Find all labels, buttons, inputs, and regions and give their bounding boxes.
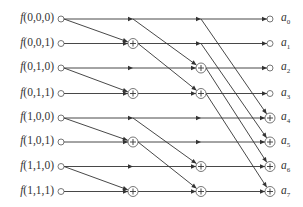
arrow-head-icon <box>260 164 265 168</box>
open-node-icon <box>58 139 64 145</box>
arrow-head-icon <box>262 41 267 45</box>
signal-flow-graph <box>0 0 303 207</box>
cross-edge <box>201 44 267 138</box>
input-label: f(1,0,0) <box>20 110 54 122</box>
cross-edge <box>138 44 197 91</box>
arrow-head-icon <box>128 17 133 21</box>
output-label: a3 <box>281 86 290 101</box>
open-node-icon <box>58 164 64 170</box>
arrow-head-icon <box>262 91 267 95</box>
arrow-head-icon <box>196 41 201 45</box>
cross-edge <box>206 68 267 162</box>
input-label: f(0,0,1) <box>20 36 54 48</box>
arrow-head-icon <box>260 116 265 120</box>
arrow-head-icon <box>262 109 267 114</box>
output-label: a6 <box>281 159 290 174</box>
output-label: a7 <box>281 184 290 199</box>
cross-edge <box>201 19 267 114</box>
open-node-icon <box>267 41 273 47</box>
arrow-head-icon <box>128 116 133 120</box>
arrow-head-icon <box>260 189 265 193</box>
arrow-head-icon <box>191 60 196 65</box>
arrow-head-icon <box>128 66 133 70</box>
cross-edge <box>206 94 267 188</box>
output-label: a1 <box>281 36 290 51</box>
arrow-head-icon <box>262 133 267 138</box>
arrow-head-icon <box>262 17 267 21</box>
open-node-icon <box>58 115 64 121</box>
arrow-head-icon <box>191 66 196 70</box>
open-node-icon <box>58 41 64 47</box>
arrow-head-icon <box>262 66 267 70</box>
arrow-head-icon <box>191 189 196 193</box>
cross-edge <box>64 167 128 190</box>
arrow-head-icon <box>191 91 196 95</box>
arrow-head-icon <box>196 17 201 21</box>
open-node-icon <box>267 91 273 97</box>
arrow-head-icon <box>128 164 133 168</box>
arrow-head-icon <box>262 157 267 162</box>
output-label: a5 <box>281 134 290 149</box>
open-node-icon <box>267 16 273 22</box>
input-label: f(1,0,1) <box>20 134 54 146</box>
arrow-head-icon <box>196 140 201 144</box>
open-node-icon <box>58 16 64 22</box>
arrow-head-icon <box>260 140 265 144</box>
cross-edge <box>64 19 128 42</box>
open-node-icon <box>58 189 64 195</box>
cross-edge <box>64 68 128 92</box>
input-label: f(0,1,0) <box>20 60 54 72</box>
output-label: a4 <box>281 110 290 125</box>
butterfly-diagram: f(0,0,0)f(0,0,1)f(0,1,0)f(0,1,1)f(1,0,0)… <box>0 0 303 207</box>
input-label: f(0,0,0) <box>20 11 54 23</box>
cross-edge <box>133 118 196 164</box>
input-label: f(0,1,1) <box>20 86 54 98</box>
cross-edge <box>64 118 128 140</box>
open-node-icon <box>58 65 64 71</box>
arrow-head-icon <box>191 159 196 164</box>
arrow-head-icon <box>191 164 196 168</box>
input-label: f(1,1,1) <box>20 184 54 196</box>
input-label: f(1,1,0) <box>20 159 54 171</box>
output-label: a2 <box>281 60 290 75</box>
open-node-icon <box>267 65 273 71</box>
arrow-head-icon <box>262 182 267 187</box>
open-node-icon <box>58 91 64 97</box>
arrow-head-icon <box>196 116 201 120</box>
cross-edge <box>138 142 197 188</box>
output-label: a0 <box>281 11 290 26</box>
cross-edge <box>133 19 196 65</box>
